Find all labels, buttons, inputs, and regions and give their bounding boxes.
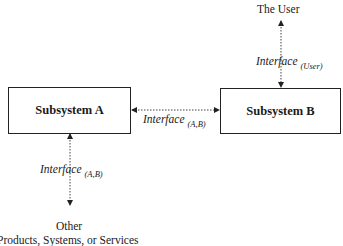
interface-user-label: Interface(User): [256, 55, 323, 71]
subsystem-a-label: Subsystem A: [35, 103, 103, 118]
user-node-label: The User: [257, 3, 299, 15]
other-node-label: Other: [56, 220, 82, 232]
subsystem-a-box: Subsystem A: [8, 87, 131, 134]
interface-other-label: Interface(A,B): [40, 163, 103, 179]
subsystem-b-box: Subsystem B: [220, 88, 341, 134]
subsystem-b-label: Subsystem B: [246, 104, 314, 119]
other-node-sublabel: Products, Systems, or Services: [0, 234, 139, 246]
interface-a-b-label: Interface(A,B): [143, 113, 206, 129]
